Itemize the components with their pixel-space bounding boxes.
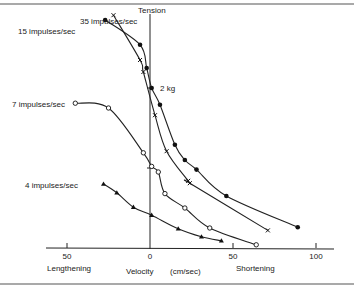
x-label-lengthening: Lengthening — [47, 264, 91, 273]
data-point-open-circle — [156, 170, 160, 174]
series-label: 35 impulses/sec — [80, 17, 137, 26]
series-label: 7 impulses/sec — [12, 100, 65, 109]
data-point-triangle — [131, 205, 136, 209]
data-point-open-circle — [141, 151, 145, 155]
x-tick-label: 100 — [309, 252, 323, 261]
data-point-filled-circle — [138, 43, 143, 48]
data-point-open-circle — [208, 226, 212, 230]
force-velocity-chart: 50050100 35 impulses/sec15 impulses/sec7… — [0, 0, 354, 293]
data-point-open-circle — [163, 191, 167, 195]
data-point-open-circle — [254, 243, 258, 247]
data-point-cross — [138, 58, 142, 62]
series-line — [75, 103, 256, 245]
data-point-filled-circle — [158, 103, 163, 108]
data-point-cross — [266, 228, 270, 232]
series-label: 15 impulses/sec — [18, 27, 75, 36]
x-tick-label: 50 — [229, 252, 238, 261]
series-4-impulses: 4 impulses/sec — [25, 181, 224, 243]
x-label-units: (cm/sec) — [170, 267, 201, 276]
data-point-open-circle — [73, 101, 77, 105]
x-tick-label: 50 — [63, 252, 72, 261]
data-point-open-circle — [149, 164, 153, 168]
data-point-filled-circle — [149, 86, 154, 91]
series-line — [104, 184, 222, 241]
x-axis — [46, 248, 334, 249]
data-point-triangle — [101, 181, 106, 185]
x-tick-label: 0 — [148, 252, 153, 261]
x-label-shortening: Shortening — [236, 264, 275, 273]
data-point-filled-circle — [224, 194, 229, 199]
two-kg-annotation: 2 kg — [160, 84, 175, 93]
series-label: 4 impulses/sec — [25, 181, 78, 190]
data-point-filled-circle — [173, 143, 178, 148]
data-point-cross — [165, 149, 169, 153]
data-point-open-circle — [106, 106, 110, 110]
data-point-open-circle — [183, 206, 187, 210]
series-35-impulses: 35 impulses/sec — [80, 17, 300, 230]
data-point-filled-circle — [194, 167, 199, 172]
data-point-filled-circle — [144, 66, 149, 71]
series-7-impulses: 7 impulses/sec — [12, 100, 258, 247]
data-point-filled-circle — [295, 225, 300, 230]
x-label-velocity: Velocity — [126, 267, 154, 276]
series-line — [113, 15, 267, 230]
y-axis-label: Tension — [138, 6, 166, 15]
series-line — [105, 20, 298, 227]
data-point-filled-circle — [183, 158, 188, 163]
